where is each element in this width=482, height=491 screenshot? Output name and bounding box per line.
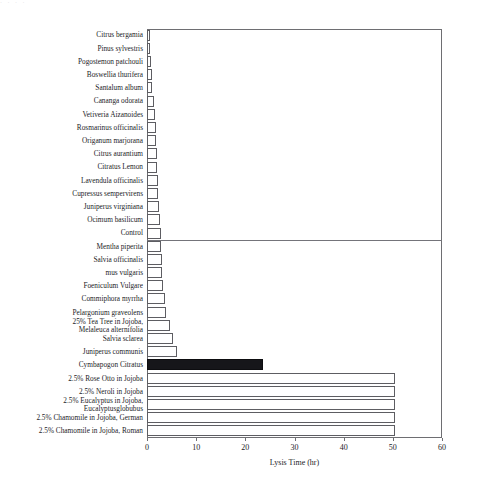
y-axis-label: Pinus sylvestris	[0, 45, 143, 53]
y-axis-label: Lavendula officinalis	[0, 177, 143, 185]
bar	[147, 201, 159, 212]
y-axis-label: mus vulgaris	[0, 269, 143, 277]
y-axis-label: 2.5% Chamomile in Jojoba, German	[0, 414, 143, 422]
y-axis-label: Santalum album	[0, 84, 143, 92]
x-axis-tick-label: 0	[145, 443, 149, 452]
y-axis-label: 25% Tea Tree in Jojoba, Melaleuca altern…	[0, 318, 143, 334]
y-axis-label: Cupressus sempervirens	[0, 190, 143, 198]
y-axis-label: Ocimum basilicum	[0, 216, 143, 224]
bar	[147, 135, 156, 146]
bar	[147, 280, 163, 291]
y-axis-label: Boswellia thurifera	[0, 71, 143, 79]
bar	[147, 373, 395, 384]
bars-layer	[147, 29, 442, 438]
x-axis-tick-label: 20	[241, 443, 249, 452]
y-axis-label: 2.5% Rose Otto in Jojoba	[0, 375, 143, 383]
bar	[147, 386, 395, 397]
bar	[147, 109, 155, 120]
y-axis-label: Control	[0, 229, 143, 237]
bar	[147, 399, 395, 410]
bar	[147, 214, 160, 225]
y-axis-label: Vetiveria Aizanoides	[0, 111, 143, 119]
x-axis-tick-mark	[245, 438, 246, 441]
bar	[147, 30, 150, 41]
x-axis-tick-label: 60	[438, 443, 446, 452]
bar	[147, 320, 170, 331]
bar	[147, 241, 161, 252]
bar	[147, 254, 162, 265]
x-axis-title: Lysis Time (hr)	[147, 458, 442, 467]
y-axis-label: Salvia sclarea	[0, 335, 143, 343]
y-axis-label: Cananga odorata	[0, 97, 143, 105]
bar	[147, 122, 156, 133]
x-axis-tick-mark	[196, 438, 197, 441]
y-axis-label: Rosmarinus officinalis	[0, 124, 143, 132]
bar	[147, 228, 161, 239]
x-axis-tick-label: 50	[389, 443, 397, 452]
bar	[147, 425, 395, 436]
y-axis-label: Juniperus communis	[0, 348, 143, 356]
bar	[147, 359, 263, 370]
bar	[147, 412, 395, 423]
lysis-time-bar-chart-figure: · · · · Citrus bergamiaPinus sylvestrisP…	[0, 0, 482, 491]
page-top-artifact: · · · ·	[0, 0, 482, 10]
y-axis-label: Cymbapogon Citratus	[0, 361, 143, 369]
bar	[147, 82, 152, 93]
bar	[147, 162, 157, 173]
y-axis-label: Citrus aurantium	[0, 150, 143, 158]
bar	[147, 96, 154, 107]
bar	[147, 188, 158, 199]
x-axis-tick-mark	[295, 438, 296, 441]
y-axis-label: Origanum marjorana	[0, 137, 143, 145]
x-axis-tick-mark	[344, 438, 345, 441]
y-axis-label: 2.5% Neroli in Jojoba	[0, 388, 143, 396]
bar	[147, 56, 151, 67]
bar	[147, 346, 177, 357]
y-axis-label: 2.5% Chamomile in Jojoba, Roman	[0, 427, 143, 435]
bar	[147, 43, 150, 54]
y-axis-label: Salvia officinalis	[0, 256, 143, 264]
control-divider-line	[147, 240, 442, 241]
y-axis-label: Mentha piperita	[0, 243, 143, 251]
bar	[147, 293, 165, 304]
y-axis-label: Pogostemon patchouli	[0, 58, 143, 66]
bar	[147, 148, 157, 159]
y-axis-label: Juniperus virginiana	[0, 203, 143, 211]
y-axis-label: 2.5% Eucalyptus in Jojoba, Eucalyptusglo…	[0, 397, 143, 413]
y-axis-label: Citrus bergamia	[0, 31, 143, 39]
bar	[147, 307, 166, 318]
bar	[147, 69, 152, 80]
y-axis-label: Citratus Lemon	[0, 163, 143, 171]
bar	[147, 333, 173, 344]
y-axis-label: Commiphora myrrha	[0, 295, 143, 303]
x-axis-tick-label: 10	[192, 443, 200, 452]
y-axis-label: Pelargonium graveolens	[0, 309, 143, 317]
bar	[147, 267, 162, 278]
y-axis-label: Foeniculum Vulgare	[0, 282, 143, 290]
y-axis-category-labels: Citrus bergamiaPinus sylvestrisPogostemo…	[0, 29, 143, 438]
bar	[147, 175, 158, 186]
x-axis-tick-labels: 0102030405060	[0, 443, 482, 455]
x-axis-tick-label: 40	[340, 443, 348, 452]
x-axis-tick-mark	[393, 438, 394, 441]
x-axis-tick-mark	[147, 438, 148, 441]
x-axis-tick-label: 30	[291, 443, 299, 452]
x-axis-tick-mark	[442, 438, 443, 441]
